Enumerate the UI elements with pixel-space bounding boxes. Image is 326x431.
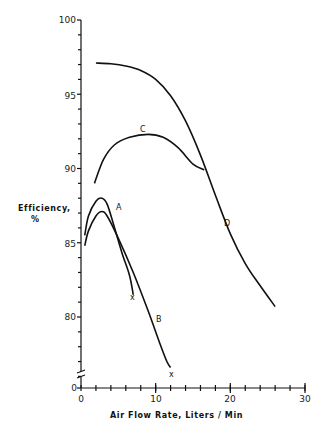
y-tick-label-80: 80 [65, 312, 77, 322]
x-tick-label-30: 30 [299, 394, 311, 404]
y-tick-label-85: 85 [65, 239, 76, 249]
x-tick-label-0: 0 [78, 394, 84, 404]
x-tick-label-20: 20 [224, 394, 236, 404]
curve-a [85, 198, 134, 295]
axes [77, 20, 305, 393]
curves [85, 63, 275, 367]
x-tick-label-10: 10 [150, 394, 162, 404]
curve-label-b: B [156, 315, 162, 324]
curve-c [94, 134, 204, 183]
y-tick-label-95: 95 [65, 91, 76, 101]
x-axis-title: Air Flow Rate, Liters / Min [110, 411, 243, 420]
efficiency-chart: 100 95 90 85 80 0 0 10 20 30 Efficiency,… [0, 0, 326, 431]
y-tick-label-90: 90 [65, 164, 77, 174]
y-tick-label-100: 100 [59, 15, 76, 25]
curve-d [96, 63, 275, 307]
curve-b [85, 212, 171, 368]
y-tick-label-0: 0 [71, 383, 77, 393]
y-axis-title-line1: Efficiency, [18, 204, 71, 213]
curve-label-d: D [224, 219, 230, 228]
curve-b-end-marker: x [169, 370, 174, 379]
y-axis-title-line2: % [31, 215, 40, 224]
curve-a-end-marker: x [130, 293, 135, 302]
curve-label-c: C [140, 125, 146, 134]
curve-label-a: A [116, 203, 122, 212]
